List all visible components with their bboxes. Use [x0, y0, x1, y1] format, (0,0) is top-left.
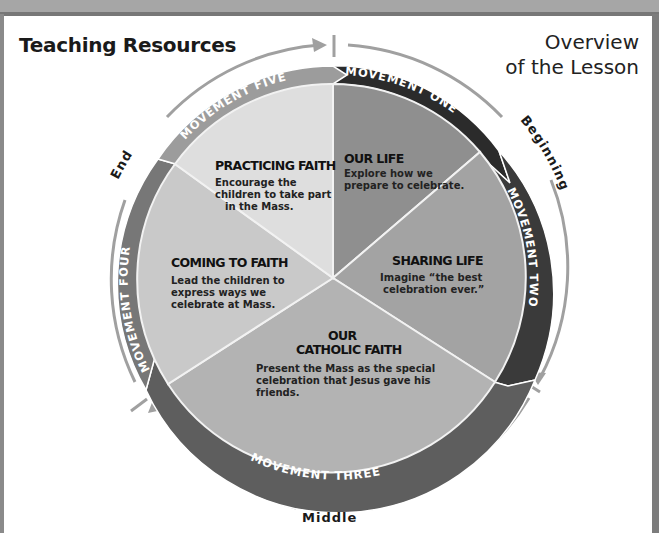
segment-body-our-life-1: Explore how we — [344, 168, 433, 179]
segment-title-our-catholic-faith-2: CATHOLIC FAITH — [296, 342, 402, 357]
segment-body-practicing-faith-1: Encourage the — [215, 177, 297, 188]
phase-label-middle: Middle — [302, 510, 357, 525]
segment-body-coming-to-faith-2: express ways we — [171, 287, 266, 298]
segment-body-our-life-2: prepare to celebrate. — [344, 180, 464, 191]
segment-body-coming-to-faith-1: Lead the children to — [171, 275, 285, 286]
arrowhead-top-icon — [312, 38, 327, 52]
segment-body-our-catholic-faith-3: friends. — [256, 387, 300, 398]
segment-title-coming-to-faith: COMING TO FAITH — [171, 255, 288, 270]
segment-body-practicing-faith-3: in the Mass. — [225, 201, 294, 212]
segment-body-sharing-life-1: Imagine “the best — [380, 272, 482, 283]
segment-title-our-catholic-faith-1: OUR — [328, 328, 358, 343]
segment-body-sharing-life-2: celebration ever.” — [383, 284, 484, 295]
segment-body-practicing-faith-2: children to take part — [215, 189, 332, 200]
segment-body-coming-to-faith-3: celebrate at Mass. — [171, 299, 275, 310]
segment-body-our-catholic-faith-2: celebration that Jesus gave his — [256, 375, 431, 386]
segment-body-our-catholic-faith-1: Present the Mass as the special — [256, 363, 435, 374]
divider-bottom-left — [131, 399, 147, 411]
lesson-cycle-diagram: MOVEMENT ONE MOVEMENT TWO MOVEMENT THREE… — [0, 0, 659, 533]
segment-title-sharing-life: SHARING LIFE — [392, 253, 483, 268]
segment-title-our-life: OUR LIFE — [344, 151, 404, 166]
segment-title-practicing-faith: PRACTICING FAITH — [215, 158, 336, 173]
phase-label-end: End — [107, 147, 135, 181]
phase-label-beginning: Beginning — [518, 112, 573, 192]
